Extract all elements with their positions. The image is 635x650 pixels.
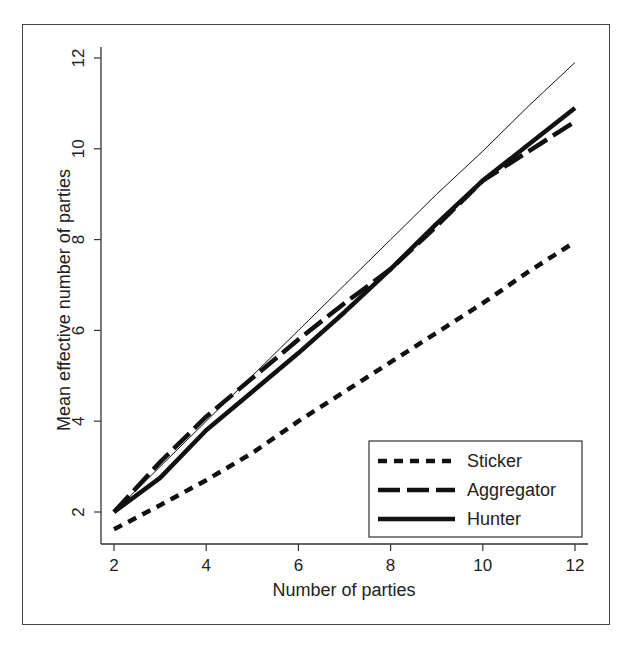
x-tick-label: 8	[386, 556, 395, 575]
x-tick-label: 12	[566, 556, 585, 575]
x-tick-label: 2	[109, 556, 118, 575]
legend-label: Aggregator	[467, 480, 556, 500]
y-axis-title: Mean effective number of parties	[54, 169, 74, 431]
legend: StickerAggregatorHunter	[369, 441, 582, 537]
x-axis-title: Number of parties	[272, 580, 415, 600]
x-tick-label: 6	[294, 556, 303, 575]
x-tick-label: 10	[473, 556, 492, 575]
x-tick-label: 4	[201, 556, 210, 575]
x-axis: 24681012	[101, 544, 588, 575]
y-tick-label: 2	[69, 507, 88, 516]
line-chart: 24681012 24681012 Mean effective number …	[0, 0, 635, 650]
y-tick-label: 12	[69, 49, 88, 68]
legend-label: Hunter	[467, 509, 521, 529]
legend-label: Sticker	[467, 451, 522, 471]
y-tick-label: 10	[69, 139, 88, 158]
